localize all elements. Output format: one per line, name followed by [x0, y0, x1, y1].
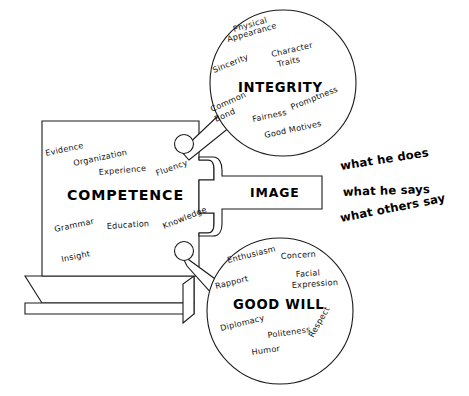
side-notes: what he does what he says what others sa… — [339, 145, 447, 225]
good-will-keyword: Facial — [295, 267, 320, 279]
image-components-diagram: Evidence Organization Experience Fluency… — [0, 0, 469, 396]
diagram-canvas: Evidence Organization Experience Fluency… — [0, 0, 469, 396]
image-heading: IMAGE — [250, 185, 300, 200]
base-slab — [25, 276, 194, 323]
side-note: what he does — [339, 145, 429, 173]
competence-heading: COMPETENCE — [67, 187, 184, 203]
good-will-heading: GOOD WILL — [233, 297, 324, 312]
integrity-heading: INTEGRITY — [238, 80, 323, 95]
